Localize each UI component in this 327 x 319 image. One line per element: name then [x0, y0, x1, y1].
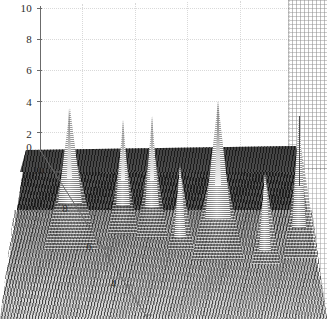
y-ticklabel-8: 8: [44, 202, 68, 214]
z-ticklabel-8: 8: [8, 33, 32, 45]
z-tick-10: [37, 8, 42, 9]
z-ticklabel-6: 6: [8, 64, 32, 76]
z-ticklabel-4: 4: [8, 96, 32, 108]
peak-7-edge-line: [299, 116, 300, 186]
z-ticklabel-0: 0: [8, 141, 32, 153]
z-axis-line: [40, 6, 41, 152]
surface-plot-figure: 10 8 6 4 2 0 10 8 6 4: [0, 0, 327, 319]
z-tick-2: [37, 132, 42, 133]
y-ticklabel-10: 10: [20, 164, 44, 176]
z-ticklabel-2: 2: [8, 128, 32, 140]
y-ticklabel-4: 4: [92, 277, 116, 289]
y-ticklabel-6: 6: [68, 240, 92, 252]
z-tick-4: [37, 101, 42, 102]
z-tick-8: [37, 39, 42, 40]
z-tick-6: [37, 70, 42, 71]
z-ticklabel-10: 10: [8, 2, 32, 14]
